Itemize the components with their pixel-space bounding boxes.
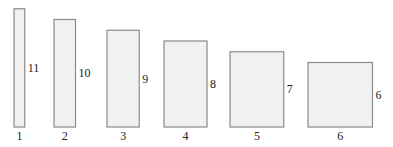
rectangles-diagram: 11121039485766 (0, 0, 393, 147)
rectangle-1 (14, 9, 25, 127)
width-label: 2 (62, 129, 68, 143)
rectangle-group-1: 111 (14, 9, 39, 143)
height-label: 9 (142, 72, 148, 86)
width-label: 6 (337, 129, 343, 143)
rectangle-6 (308, 63, 373, 128)
rectangle-group-5: 57 (230, 52, 293, 143)
rectangle-group-2: 210 (54, 20, 91, 144)
width-label: 1 (16, 129, 22, 143)
rectangle-group-4: 48 (164, 41, 216, 143)
height-label: 6 (376, 88, 382, 102)
rectangle-2 (54, 20, 76, 128)
height-label: 11 (28, 61, 40, 75)
rectangle-5 (230, 52, 284, 127)
rectangle-group-6: 66 (308, 63, 382, 144)
width-label: 4 (183, 129, 189, 143)
height-label: 8 (210, 77, 216, 91)
width-label: 3 (120, 129, 126, 143)
height-label: 10 (79, 66, 91, 80)
width-label: 5 (254, 129, 260, 143)
height-label: 7 (287, 82, 293, 96)
rectangle-group-3: 39 (107, 30, 148, 143)
rectangle-3 (107, 30, 139, 127)
rectangle-4 (164, 41, 207, 127)
